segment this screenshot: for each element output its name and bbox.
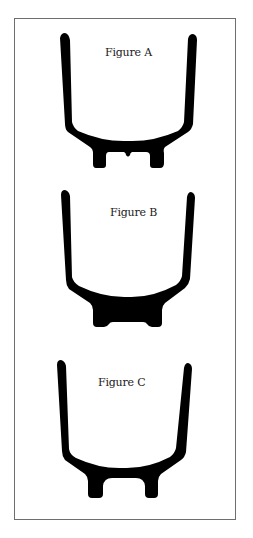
figure-a-label: Figure A (105, 47, 152, 59)
figure-c-label: Figure C (98, 377, 145, 389)
figure-b-label: Figure B (110, 207, 157, 219)
profiles-diagram (0, 0, 253, 538)
